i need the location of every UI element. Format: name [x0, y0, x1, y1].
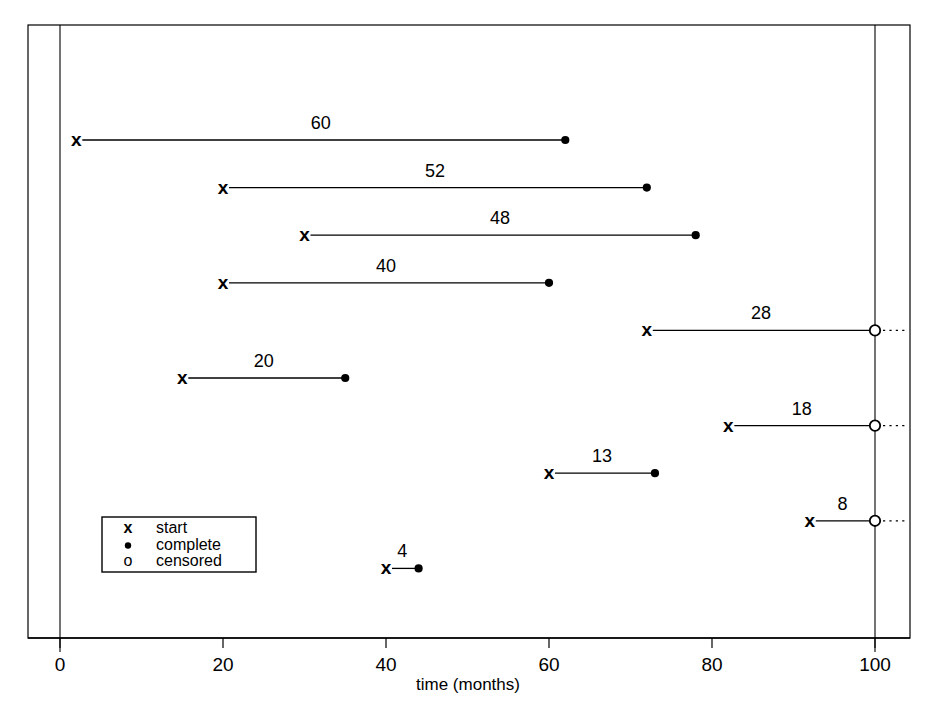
complete-marker-icon — [651, 469, 659, 477]
legend-censored-marker-icon: o — [124, 552, 133, 569]
start-marker-icon: x — [71, 129, 82, 150]
legend-label-start: start — [156, 519, 188, 536]
x-axis-tick-labels: 020406080100 — [55, 654, 891, 675]
legend: xstartcompleteocensored — [102, 517, 256, 572]
start-marker-icon: x — [381, 557, 392, 578]
start-marker-icon: x — [805, 510, 816, 531]
start-marker-icon: x — [544, 462, 555, 483]
duration-label: 52 — [425, 161, 445, 181]
duration-label: 18 — [792, 399, 812, 419]
legend-start-marker-icon: x — [124, 519, 133, 536]
x-axis-title-text: time (months) — [416, 675, 520, 694]
start-marker-icon: x — [218, 272, 229, 293]
swimmer-plot: 020406080100 x60x52x48x40x28x20x18x13x8x… — [0, 0, 936, 713]
duration-label: 20 — [254, 351, 274, 371]
censored-marker-icon — [870, 420, 880, 430]
x-tick-label-40: 40 — [375, 654, 396, 675]
start-marker-icon: x — [299, 224, 310, 245]
duration-label: 28 — [751, 303, 771, 323]
start-marker-icon: x — [177, 367, 188, 388]
duration-label: 4 — [397, 541, 407, 561]
duration-label: 8 — [837, 494, 847, 514]
duration-label: 40 — [376, 256, 396, 276]
complete-marker-icon — [341, 374, 349, 382]
duration-label: 13 — [592, 446, 612, 466]
complete-marker-icon — [545, 279, 553, 287]
censored-marker-icon — [870, 516, 880, 526]
legend-label-censored: censored — [156, 552, 222, 569]
start-marker-icon: x — [723, 415, 734, 436]
complete-marker-icon — [561, 136, 569, 144]
complete-marker-icon — [643, 184, 651, 192]
start-marker-icon: x — [642, 319, 653, 340]
duration-label: 60 — [311, 113, 331, 133]
complete-marker-icon — [415, 564, 423, 572]
legend-complete-marker-icon — [125, 542, 131, 548]
x-tick-label-60: 60 — [538, 654, 559, 675]
x-tick-label-80: 80 — [701, 654, 722, 675]
duration-label: 48 — [490, 208, 510, 228]
x-axis-ticks — [60, 638, 875, 648]
complete-marker-icon — [692, 231, 700, 239]
x-axis-title: time (months) — [416, 675, 520, 694]
x-tick-label-100: 100 — [859, 654, 891, 675]
x-tick-label-0: 0 — [55, 654, 66, 675]
chart-canvas: 020406080100 x60x52x48x40x28x20x18x13x8x… — [0, 0, 936, 713]
legend-label-complete: complete — [156, 536, 221, 553]
start-marker-icon: x — [218, 177, 229, 198]
x-tick-label-20: 20 — [212, 654, 233, 675]
censored-marker-icon — [870, 325, 880, 335]
